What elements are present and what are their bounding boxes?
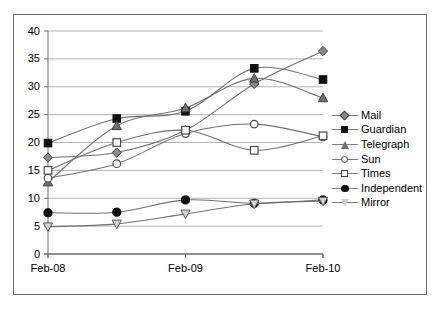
y-axis-tick-label: 30 xyxy=(14,81,40,92)
legend-marker-circle-filled-icon xyxy=(332,181,358,195)
legend-item-mail[interactable]: Mail xyxy=(332,108,424,123)
legend-marker-glyph xyxy=(340,110,350,120)
data-point-marker xyxy=(319,76,327,84)
chart-figure: 0510152025303540 Feb-08Feb-09Feb-10 Mail… xyxy=(0,0,442,311)
x-axis-tick-label: Feb-08 xyxy=(18,263,78,274)
legend-marker-glyph xyxy=(341,199,349,207)
y-axis-tick-label: 35 xyxy=(14,53,40,64)
legend-marker-glyph xyxy=(341,170,348,177)
data-point-marker xyxy=(113,208,121,216)
y-axis-tick-label: 25 xyxy=(14,109,40,120)
legend-item-sun[interactable]: Sun xyxy=(332,152,424,167)
legend-item-independent[interactable]: Independent xyxy=(332,181,424,196)
data-point-marker xyxy=(44,139,52,147)
data-point-marker xyxy=(43,223,52,232)
data-point-marker xyxy=(44,174,52,182)
legend-item-label: Mail xyxy=(358,110,381,121)
y-axis-tick-label: 0 xyxy=(14,249,40,260)
data-point-marker xyxy=(250,65,258,73)
y-axis-tick-label: 40 xyxy=(14,26,40,37)
data-point-marker xyxy=(181,196,189,204)
legend-item-guardian[interactable]: Guardian xyxy=(332,123,424,138)
data-point-marker xyxy=(250,120,258,128)
legend-marker-glyph xyxy=(341,185,349,193)
legend-item-label: Sun xyxy=(358,154,381,165)
legend-marker-circle-open-icon xyxy=(332,152,358,166)
legend-item-label: Telegraph xyxy=(358,139,409,150)
y-axis-tick-label: 20 xyxy=(14,137,40,148)
legend-marker-glyph xyxy=(341,126,348,133)
chart-legend: MailGuardianTelegraphSunTimesIndependent… xyxy=(332,108,424,210)
legend-item-label: Times xyxy=(358,168,391,179)
legend-marker-square-open-icon xyxy=(332,167,358,181)
y-axis-tick-label: 10 xyxy=(14,193,40,204)
data-point-marker xyxy=(112,148,121,157)
legend-marker-glyph xyxy=(341,141,349,149)
x-axis-tick-label: Feb-09 xyxy=(156,263,216,274)
data-point-marker xyxy=(44,209,52,217)
x-axis-tick-label: Feb-10 xyxy=(293,263,353,274)
legend-item-mirror[interactable]: Mirror xyxy=(332,196,424,211)
legend-item-telegraph[interactable]: Telegraph xyxy=(332,137,424,152)
legend-marker-triangle-up-icon xyxy=(332,137,358,151)
legend-marker-square-filled-icon xyxy=(332,123,358,137)
legend-item-label: Mirror xyxy=(358,197,390,208)
series-times xyxy=(44,126,327,174)
data-point-marker xyxy=(182,126,190,134)
legend-marker-glyph xyxy=(341,156,348,163)
data-point-marker xyxy=(43,153,52,162)
data-point-marker xyxy=(319,132,327,140)
data-point-marker xyxy=(113,139,121,147)
legend-item-label: Guardian xyxy=(358,124,406,135)
y-axis-tick-label: 15 xyxy=(14,165,40,176)
y-axis-tick-label: 5 xyxy=(14,221,40,232)
data-point-marker xyxy=(113,160,121,168)
legend-marker-diamond-filled-icon xyxy=(332,108,358,122)
data-point-marker xyxy=(250,147,258,155)
data-point-marker xyxy=(44,167,52,175)
legend-item-times[interactable]: Times xyxy=(332,166,424,181)
legend-marker-triangle-down-icon xyxy=(332,196,358,210)
data-point-marker xyxy=(318,46,327,55)
data-point-marker xyxy=(318,93,327,102)
legend-item-label: Independent xyxy=(358,183,422,194)
